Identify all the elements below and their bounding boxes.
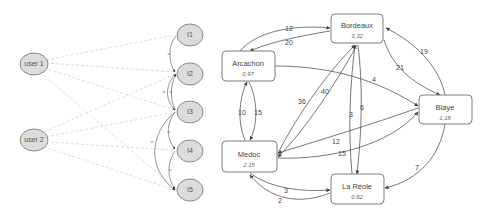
edge-label: 15 <box>338 150 346 157</box>
edge-label: 2 <box>278 197 282 204</box>
node-blaye[interactable]: Blaye 1,18 <box>419 95 472 124</box>
item-edge-label: w <box>170 89 173 94</box>
node-value: 0,62 <box>351 194 363 200</box>
edge-label: 3 <box>284 187 288 194</box>
item-node-i3[interactable]: I3 <box>177 101 203 123</box>
node-name: Arcachon <box>232 59 264 68</box>
item-item-edges: w w w w w w <box>151 36 176 190</box>
node-name: Medoc <box>238 150 261 159</box>
item-node-label: I4 <box>187 147 193 154</box>
item-edge-label: w <box>169 167 172 172</box>
user-node-label: user 1 <box>24 60 44 67</box>
edge-label: 15 <box>254 109 262 116</box>
edge-label: 12 <box>332 138 340 145</box>
item-node-label: I3 <box>187 108 193 115</box>
edge-label: 7 <box>415 164 419 171</box>
node-bordeaux[interactable]: Bordeaux 3,32 <box>331 14 383 43</box>
node-medoc[interactable]: Medoc 2,15 <box>222 141 277 172</box>
user-item-edges <box>40 35 175 190</box>
edge-label: 3 <box>349 111 353 118</box>
edge-label: 36 <box>298 98 306 105</box>
node-name: Blaye <box>436 103 455 112</box>
edge-label: 4 <box>372 76 376 83</box>
edge-label: 12 <box>285 25 293 32</box>
node-arcachon[interactable]: Arcachon 0,97 <box>222 51 275 81</box>
user-node-user2[interactable]: user 2 <box>20 129 48 151</box>
node-value: 2,15 <box>242 162 255 168</box>
item-edge-label: w <box>168 129 171 134</box>
user-node-user1[interactable]: user 1 <box>20 53 48 75</box>
item-node-i5[interactable]: I5 <box>177 179 203 201</box>
item-edge-label: w <box>168 51 171 56</box>
edge-label: 6 <box>360 104 364 111</box>
node-value: 3,32 <box>351 33 363 39</box>
item-node-label: I2 <box>187 70 193 77</box>
node-value: 1,18 <box>439 115 451 121</box>
item-node-label: I1 <box>187 31 193 38</box>
diagram-canvas: w w w w w w user 1 user 2 I1 I2 I3 I4 I5 <box>0 0 490 215</box>
item-node-i1[interactable]: I1 <box>177 24 203 46</box>
node-la-reole[interactable]: La Réole 0,62 <box>331 174 384 204</box>
node-name: La Réole <box>342 182 372 191</box>
item-edge-label: w <box>163 89 166 94</box>
node-name: Bordeaux <box>341 21 373 30</box>
edge-label: 40 <box>321 88 329 95</box>
edge-label: 20 <box>285 39 293 46</box>
item-node-label: I5 <box>187 186 193 193</box>
edge-label: 10 <box>238 109 246 116</box>
user-node-label: user 2 <box>24 136 44 143</box>
edge-label: 19 <box>420 48 428 55</box>
edge-label: 21 <box>396 64 404 71</box>
item-node-i2[interactable]: I2 <box>177 63 203 85</box>
item-edge-label: w <box>151 139 154 144</box>
item-node-i4[interactable]: I4 <box>177 140 203 162</box>
node-value: 0,97 <box>242 71 254 77</box>
